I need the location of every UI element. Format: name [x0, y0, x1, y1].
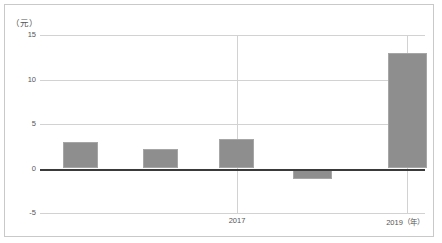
zero-axis-line — [40, 169, 425, 171]
gridline-15 — [40, 35, 425, 36]
bar-2019 — [388, 53, 427, 169]
gridline-neg5 — [40, 213, 425, 214]
vertical-gridline-2017 — [237, 35, 238, 213]
bar-2016 — [143, 149, 178, 169]
y-tick-label-neg5: -5 — [6, 209, 36, 217]
bar-2017 — [219, 139, 254, 168]
x-tick-label-2017: 2017 — [229, 216, 246, 225]
gridline-10 — [40, 80, 425, 81]
y-tick-label-10: 10 — [6, 76, 36, 84]
y-tick-label-0: 0 — [6, 165, 36, 173]
bar-2015 — [63, 142, 98, 169]
y-axis-unit-label: （元） — [11, 16, 38, 28]
chart-screenshot: （元） 15 10 5 0 -5 2017 2019（年） — [0, 0, 442, 243]
gridline-5 — [40, 124, 425, 125]
x-tick-label-2019: 2019（年） — [386, 216, 424, 227]
y-tick-label-5: 5 — [6, 120, 36, 128]
y-axis-tick-labels: 15 10 5 0 -5 — [4, 35, 36, 213]
y-tick-label-15: 15 — [6, 31, 36, 39]
plot-area — [40, 35, 425, 213]
